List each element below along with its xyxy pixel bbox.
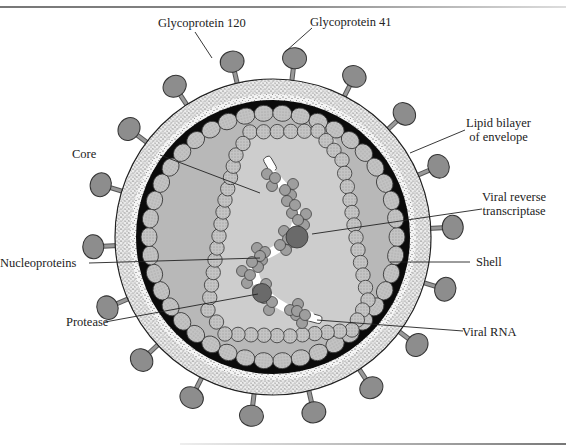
glycoprotein-120-head [238,404,264,428]
glycoprotein-120-head [176,383,207,413]
label-lipid-bilayer-line1: Lipid bilayer [466,116,531,130]
glycoprotein-120-head [159,71,191,102]
glycoprotein-120-head [218,49,246,75]
reverse-transcriptase [286,226,308,248]
label-lipid-bilayer-line2: of envelope [466,130,531,144]
glycoprotein-120-head [432,275,459,304]
glycoprotein-120-head [424,151,453,181]
label-nucleoproteins: Nucleoproteins [0,256,76,270]
label-viral-reverse-transcriptase: Viral reverse transcriptase [482,190,546,218]
virus-diagram [0,0,566,447]
label-glycoprotein-41: Glycoprotein 41 [310,15,392,29]
glycoprotein-120-head [442,215,464,240]
label-rt-line2: transcriptase [482,204,546,218]
label-core: Core [72,147,96,161]
label-protease: Protease [66,315,108,329]
label-viral-rna: Viral RNA [462,325,516,339]
label-shell: Shell [476,255,502,269]
glycoprotein-120-head [82,234,104,259]
label-lipid-bilayer: Lipid bilayer of envelope [466,116,531,144]
glycoprotein-120-head [300,399,328,425]
label-rt-line1: Viral reverse [482,190,546,204]
glycoprotein-120-head [87,170,114,199]
glycoprotein-120-head [339,62,370,92]
glycoprotein-120-head [356,372,388,403]
protease [253,284,272,303]
label-glycoprotein-120: Glycoprotein 120 [158,16,246,30]
glycoprotein-120-head [281,46,307,70]
